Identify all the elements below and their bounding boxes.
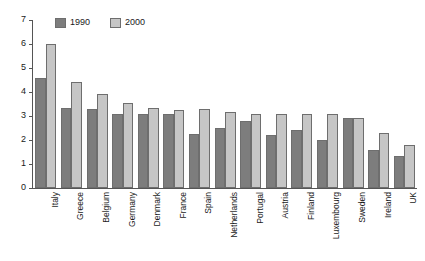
bar-group [112, 20, 133, 188]
bar [291, 130, 302, 188]
bar [46, 44, 57, 188]
y-axis-tick-mark [29, 116, 32, 117]
y-axis-tick-mark [29, 68, 32, 69]
bar [215, 128, 226, 188]
bar-group [163, 20, 184, 188]
bar [302, 114, 313, 188]
bar [71, 82, 82, 188]
bar [266, 135, 277, 188]
bar [317, 140, 328, 188]
y-axis-tick-mark [29, 44, 32, 45]
bar [138, 114, 149, 188]
x-axis-category-labels: ItalyGreeceBelgiumGermanyDenmarkFranceSp… [33, 192, 417, 258]
bar [148, 108, 159, 188]
x-axis-line [32, 188, 417, 189]
bar [276, 114, 287, 188]
bar [353, 118, 364, 188]
bar-group [266, 20, 287, 188]
y-axis-tick-label: 5 [21, 62, 26, 73]
bar-group [35, 20, 56, 188]
bar [394, 156, 405, 188]
x-axis-category-label: Greece [75, 192, 85, 220]
bar-group [87, 20, 108, 188]
bar [97, 94, 108, 188]
bar [189, 134, 200, 188]
x-axis-category-label: Denmark [152, 192, 162, 226]
bar-group [343, 20, 364, 188]
bar [225, 112, 236, 188]
bar-group [189, 20, 210, 188]
bar [35, 78, 46, 188]
bar [240, 121, 251, 188]
bar [368, 150, 379, 188]
y-axis-tick-label: 7 [21, 14, 26, 25]
bar [343, 118, 354, 188]
bar [163, 114, 174, 188]
x-axis-category-label: Finland [306, 192, 316, 220]
bar [327, 114, 338, 188]
x-axis-category-label: Luxembourg [331, 192, 341, 239]
y-axis-tick-label: 6 [21, 38, 26, 49]
y-axis-tick-mark [29, 20, 32, 21]
x-axis-category-label: Austria [280, 192, 290, 218]
y-axis-tick-mark [29, 140, 32, 141]
bar [251, 114, 262, 188]
bar-group [317, 20, 338, 188]
x-axis-category-label: UK [408, 192, 418, 204]
bar-chart: 1990 2000 01234567 ItalyGreeceBelgiumGer… [0, 0, 425, 261]
y-axis-tick-label: 1 [21, 158, 26, 169]
x-axis-category-label: Ireland [383, 192, 393, 218]
y-axis-tick-label: 0 [21, 182, 26, 193]
x-axis-category-label: Netherlands [229, 192, 239, 238]
bar [87, 109, 98, 188]
x-axis-category-label: Germany [127, 192, 137, 227]
bar [123, 103, 134, 188]
bar-group [138, 20, 159, 188]
y-axis-tick-mark [29, 188, 32, 189]
bar-group [240, 20, 261, 188]
bar [404, 145, 415, 188]
bar-group [368, 20, 389, 188]
bar [199, 109, 210, 188]
x-axis-category-label: France [178, 192, 188, 218]
bar [112, 114, 123, 188]
y-axis-tick-label: 4 [21, 86, 26, 97]
bar-group [215, 20, 236, 188]
bar-group [61, 20, 82, 188]
y-axis-tick-label: 3 [21, 110, 26, 121]
bar [379, 133, 390, 188]
bar-groups [33, 20, 417, 188]
x-axis-category-label: Sweden [357, 192, 367, 223]
bar-group [394, 20, 415, 188]
bar [174, 110, 185, 188]
bar-group [291, 20, 312, 188]
y-axis-tick-mark [29, 92, 32, 93]
x-axis-category-label: Italy [50, 192, 60, 208]
y-axis-tick-mark [29, 164, 32, 165]
x-axis-category-label: Spain [203, 192, 213, 214]
x-axis-category-label: Portugal [255, 192, 265, 224]
bar [61, 108, 72, 188]
y-axis-tick-label: 2 [21, 134, 26, 145]
x-axis-category-label: Belgium [101, 192, 111, 223]
